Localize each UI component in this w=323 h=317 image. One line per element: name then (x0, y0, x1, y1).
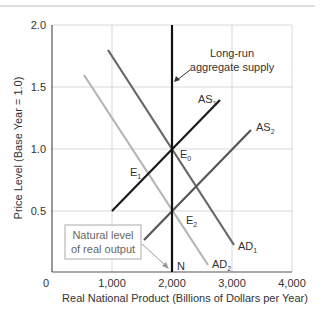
y-tick-2.0: 2.0 (31, 19, 46, 31)
as2-label: AS2 (256, 121, 275, 135)
y-tick-0.5: 0.5 (31, 205, 46, 217)
as1-label: AS1 (198, 93, 217, 107)
y-tick-1.0: 1.0 (31, 143, 46, 155)
ad2-label: AD2 (212, 258, 231, 272)
x-tick-0: 0 (43, 277, 49, 289)
natural-level-line1: Natural level (72, 229, 133, 241)
lras-label-line2: aggregate supply (190, 61, 275, 73)
x-tick-2000: 2,000 (158, 277, 186, 289)
price-level-chart: 0.5 1.0 1.5 2.0 0 1,000 2,000 3,000 4,00… (0, 0, 323, 317)
as2-curve (144, 130, 251, 240)
e0-label: E0 (180, 148, 191, 162)
natural-level-line2: of real output (71, 243, 135, 255)
ad1-label: AD1 (238, 240, 257, 254)
x-tick-1000: 1,000 (98, 277, 126, 289)
x-tick-3000: 3,000 (218, 277, 246, 289)
natural-level-pointer (142, 244, 165, 265)
y-tick-1.5: 1.5 (31, 81, 46, 93)
as1-curve (112, 100, 220, 211)
lras-pointer-arrow (177, 70, 190, 80)
e1-label: E1 (130, 166, 141, 180)
n-label: N (177, 260, 185, 272)
y-axis-title: Price Level (Base Year = 1.0) (12, 77, 24, 220)
lras-label-line1: Long-run (210, 47, 254, 59)
x-axis-title: Real National Product (Billions of Dolla… (62, 292, 308, 304)
x-tick-4000: 4,000 (278, 277, 306, 289)
e2-label: E2 (186, 214, 197, 228)
